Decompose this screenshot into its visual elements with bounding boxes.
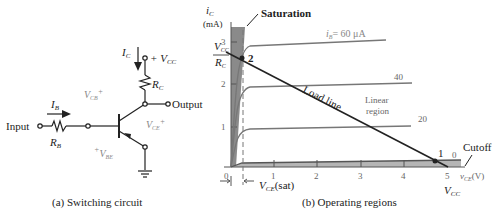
load-line-label: Load line	[301, 83, 344, 113]
output-terminal	[166, 102, 170, 106]
emitter-node	[143, 145, 147, 149]
rc-label: RC	[151, 78, 164, 92]
ib-arrow-icon	[62, 110, 71, 118]
rc-resistor	[140, 75, 150, 90]
linear-region-label-1: Linear	[365, 95, 388, 105]
curve-60-label: iB= 60 μA	[326, 28, 366, 40]
point-1-label: 1	[438, 147, 444, 159]
operating-point-1	[433, 159, 438, 164]
curve-20-label: 20	[418, 114, 428, 124]
cutoff-label: Cutoff	[463, 141, 492, 153]
x-axis-label: vCE(V)	[460, 171, 484, 182]
rb-resistor	[52, 121, 66, 131]
input-label: Input	[6, 120, 29, 132]
saturation-label: Saturation	[261, 7, 311, 19]
transistor-switch-figure: Input Output + VCC IC RC IB RB VCB+ VCE+…	[0, 0, 496, 217]
linear-region-label-2: region	[366, 106, 389, 116]
x-tick-5: 5	[445, 171, 450, 181]
base-terminal	[86, 124, 90, 128]
output-label: Output	[172, 98, 203, 110]
collector-node	[143, 102, 147, 106]
x-tick-2: 2	[314, 171, 319, 181]
operating-point-2	[240, 56, 245, 61]
vcc-axis-label: VCC	[444, 184, 460, 198]
chart-caption: (b) Operating regions	[302, 196, 397, 209]
curve-40-label: 40	[394, 72, 404, 82]
saturation-pointer	[247, 14, 258, 26]
vcb-label: VCB+	[84, 87, 103, 101]
x-tick-4: 4	[401, 171, 406, 181]
point-2-label: 2	[248, 52, 254, 64]
curve-0-label: 0	[452, 150, 457, 160]
y-tick-1: 1	[221, 122, 226, 132]
cutoff-pointer	[465, 155, 472, 166]
vce-label: VCE+	[146, 117, 165, 131]
ic-label: IC	[121, 46, 131, 60]
x-tick-3: 3	[358, 171, 363, 181]
svg-text:RC: RC	[214, 56, 227, 69]
y-tick-2: 2	[221, 79, 226, 89]
vbe-label: +VBE	[94, 145, 113, 160]
curve-ib-60	[231, 40, 386, 167]
emitter-arrow-icon	[124, 133, 131, 139]
vcc-supply-label: + VCC	[150, 52, 177, 66]
ib-label: IB	[50, 98, 60, 112]
y-axis-unit: (mA)	[203, 19, 223, 29]
vce-sat-label: VCE(sat)	[259, 179, 295, 193]
input-terminal	[38, 124, 42, 128]
vcc-terminal	[143, 56, 147, 60]
y-tick-3: 3	[221, 37, 226, 47]
rb-label: RB	[49, 136, 62, 150]
y-axis-label: iC	[206, 4, 214, 18]
ic-arrow-icon	[134, 62, 142, 71]
circuit-caption: (a) Switching circuit	[52, 196, 142, 209]
